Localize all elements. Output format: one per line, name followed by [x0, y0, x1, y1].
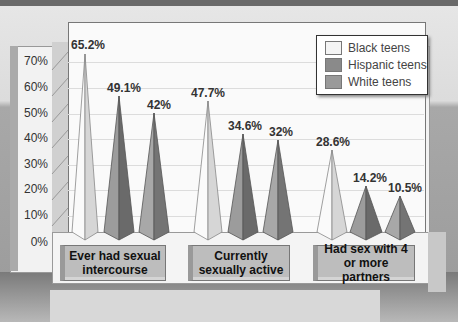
value-label: 47.7%	[191, 86, 225, 100]
pyramid-hispanic-current	[228, 134, 258, 240]
category-label-ever: Ever had sexualintercourse	[60, 245, 166, 281]
pyramid-black-partners	[317, 150, 347, 240]
pyramid-white-ever	[139, 113, 169, 240]
pyramid-black-current	[194, 101, 222, 240]
legend-item-black: Black teens	[325, 40, 410, 56]
category-line: Ever had sexual	[69, 249, 160, 263]
legend-swatch	[325, 58, 342, 72]
category-label-partners: Had sex with 4or more partners	[313, 245, 415, 281]
pyramid-white-current	[263, 140, 293, 240]
legend-item-white: White teens	[325, 74, 411, 90]
value-label: 42%	[147, 98, 171, 112]
category-line: Currently	[214, 249, 267, 263]
legend-swatch	[325, 75, 342, 89]
legend-item-hispanic: Hispanic teens	[325, 57, 427, 73]
value-label: 65.2%	[71, 38, 105, 52]
value-label: 34.6%	[228, 119, 262, 133]
legend: Black teens Hispanic teens White teens	[316, 35, 428, 95]
category-line: sexually active	[199, 263, 284, 277]
category-label-current: Currentlysexually active	[188, 245, 290, 281]
legend-label: White teens	[348, 75, 411, 89]
legend-label: Black teens	[348, 41, 410, 55]
value-label: 49.1%	[107, 81, 141, 95]
pyramid-white-partners	[385, 196, 415, 240]
legend-label: Hispanic teens	[348, 58, 427, 72]
value-label: 14.2%	[353, 171, 387, 185]
value-label: 10.5%	[388, 181, 422, 195]
pyramid-hispanic-partners	[350, 186, 382, 240]
category-line: intercourse	[82, 263, 147, 277]
pyramid-hispanic-ever	[104, 96, 134, 240]
category-line: or more partners	[342, 256, 390, 284]
legend-swatch	[325, 41, 342, 55]
value-label: 28.6%	[316, 135, 350, 149]
pyramid-black-ever	[72, 54, 98, 240]
category-line: Had sex with 4	[324, 242, 407, 256]
value-label: 32%	[269, 125, 293, 139]
